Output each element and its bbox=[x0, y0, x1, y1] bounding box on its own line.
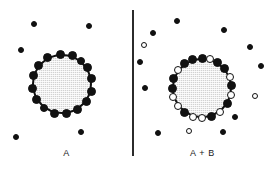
bound-ligand-b-marker bbox=[198, 114, 206, 122]
bound-ligand-a-marker bbox=[68, 51, 77, 60]
bound-ligand-a-marker bbox=[87, 87, 96, 96]
bound-ligand-b-marker bbox=[189, 113, 197, 121]
bound-ligand-b-marker bbox=[226, 73, 234, 81]
free-ligand-a-marker bbox=[18, 47, 24, 53]
free-ligand-a-marker bbox=[13, 134, 19, 140]
panel-b-caption: A + B bbox=[134, 148, 271, 158]
bound-ligand-b-marker bbox=[227, 91, 235, 99]
free-ligand-a-marker bbox=[150, 30, 156, 36]
bound-ligand-a-marker bbox=[29, 71, 38, 80]
bound-ligand-b-marker bbox=[174, 102, 182, 110]
bound-ligand-a-marker bbox=[62, 109, 71, 118]
free-ligand-a-marker bbox=[220, 129, 226, 135]
free-ligand-b-marker bbox=[186, 128, 192, 134]
panel-a: A bbox=[0, 0, 133, 176]
free-ligand-a-marker bbox=[86, 23, 92, 29]
free-ligand-a-marker bbox=[155, 130, 161, 136]
binding-diagram-figure: A A + B bbox=[0, 0, 271, 176]
panel-a-caption: A bbox=[0, 148, 133, 158]
free-ligand-b-marker bbox=[252, 93, 258, 99]
free-ligand-a-marker bbox=[78, 129, 84, 135]
free-ligand-a-marker bbox=[247, 44, 253, 50]
panel-b: A + B bbox=[134, 0, 271, 176]
bound-ligand-a-marker bbox=[198, 54, 207, 63]
free-ligand-a-marker bbox=[31, 21, 37, 27]
free-ligand-a-marker bbox=[232, 114, 238, 120]
bound-ligand-a-marker bbox=[82, 97, 91, 106]
free-ligand-b-marker bbox=[141, 42, 147, 48]
bound-ligand-a-marker bbox=[56, 50, 65, 59]
bound-ligand-a-marker bbox=[32, 95, 41, 104]
free-ligand-a-marker bbox=[142, 85, 148, 91]
bound-ligand-a-marker bbox=[40, 104, 48, 112]
bound-ligand-a-marker bbox=[180, 108, 189, 117]
bound-ligand-a-marker bbox=[73, 105, 82, 114]
bound-ligand-a-marker bbox=[28, 84, 37, 93]
bound-ligand-b-marker bbox=[216, 108, 224, 116]
bound-ligand-a-marker bbox=[227, 81, 236, 90]
bound-ligand-a-marker bbox=[168, 84, 177, 93]
bound-ligand-a-marker bbox=[207, 112, 216, 121]
free-ligand-a-marker bbox=[221, 27, 227, 33]
bound-ligand-a-marker bbox=[50, 109, 59, 118]
bound-ligand-a-marker bbox=[220, 64, 229, 73]
bound-ligand-a-marker bbox=[83, 63, 92, 72]
free-ligand-a-marker bbox=[258, 63, 264, 69]
free-ligand-a-marker bbox=[174, 18, 180, 24]
bound-ligand-a-marker bbox=[34, 61, 43, 70]
bound-ligand-a-marker bbox=[87, 74, 96, 83]
bound-ligand-a-marker bbox=[223, 99, 232, 108]
free-ligand-a-marker bbox=[137, 59, 143, 65]
